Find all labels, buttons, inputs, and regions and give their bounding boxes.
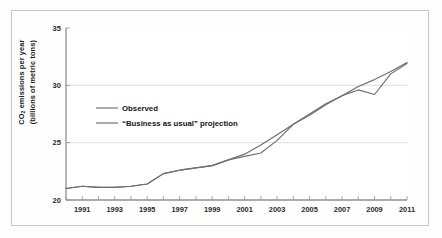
x-tick-label: 1997 — [165, 205, 195, 214]
x-tick-label: 2005 — [295, 205, 325, 214]
x-tick-label: 2011 — [392, 205, 422, 214]
y-tick-label: 35 — [45, 24, 61, 33]
legend-label-projection: “Business as usual” projection — [122, 119, 238, 128]
x-tick-label: 2003 — [262, 205, 292, 214]
x-tick-label: 2001 — [230, 205, 260, 214]
plot-background — [66, 28, 407, 200]
y-axis-title-line2: (billions of metric tons) — [28, 17, 37, 147]
x-tick-label: 2007 — [327, 205, 357, 214]
y-tick-label: 20 — [45, 196, 61, 205]
x-tick-label: 2009 — [360, 205, 390, 214]
y-tick-label: 30 — [45, 81, 61, 90]
chart-figure: Observed “Business as usual” projection … — [0, 0, 442, 238]
legend-label-observed: Observed — [122, 104, 158, 113]
plot-area: Observed “Business as usual” projection … — [0, 0, 442, 238]
x-tick-label: 1991 — [67, 205, 97, 214]
y-axis-title-line1: CO2 emissions per year — [17, 40, 26, 125]
y-axis-title: CO2 emissions per year (billions of metr… — [17, 17, 37, 147]
y-tick-label: 25 — [45, 138, 61, 147]
x-tick-label: 1999 — [197, 205, 227, 214]
x-tick-label: 1995 — [132, 205, 162, 214]
x-tick-label: 1993 — [100, 205, 130, 214]
